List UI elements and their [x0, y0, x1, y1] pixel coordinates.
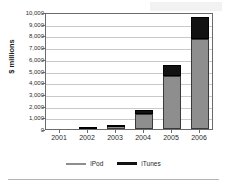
y-axis-tick-mark	[42, 95, 45, 96]
gridline	[46, 37, 212, 38]
gridline	[46, 96, 212, 97]
x-axis-tick-label: 2002	[73, 134, 101, 141]
x-axis-tick-label: 2003	[101, 134, 129, 141]
x-axis-tick-label: 2004	[129, 134, 157, 141]
y-axis-tick-mark	[42, 60, 45, 61]
legend-label: iPod	[90, 160, 103, 167]
y-axis-tick-label: 8,000	[10, 33, 44, 39]
legend-item-ipod: iPod	[66, 160, 103, 167]
y-axis-tick-mark	[42, 72, 45, 73]
gridline	[46, 73, 212, 74]
y-axis-tick-mark	[42, 36, 45, 37]
bar-segment-itunes	[191, 17, 209, 39]
x-axis-tick-mark	[171, 130, 172, 133]
y-axis-tick-label: 5,000	[10, 69, 44, 75]
x-axis-tick-mark	[143, 130, 144, 133]
scan-watermark-artifact	[150, 2, 222, 11]
x-axis-tick-label: 2001	[45, 134, 73, 141]
x-axis-tick-label: 2005	[157, 134, 185, 141]
bar-stack	[51, 12, 69, 129]
y-axis-tick-mark	[42, 107, 45, 108]
y-axis-tick-mark	[42, 130, 45, 131]
gridline	[46, 61, 212, 62]
legend-swatch-itunes	[117, 162, 137, 165]
y-axis-tick-label: 9,000	[10, 22, 44, 28]
bar-segment-itunes	[107, 125, 125, 127]
bar-segment-itunes	[135, 110, 153, 113]
x-axis-tick-label: 2006	[185, 134, 213, 141]
bar-stack	[163, 12, 181, 129]
y-axis-tick-label: 1,000	[10, 115, 44, 121]
bar-segment-ipod	[191, 39, 209, 129]
plot-inner	[46, 14, 212, 129]
gridline	[46, 119, 212, 120]
bar-stack	[191, 12, 209, 129]
y-axis-tick-label: 10,000	[10, 10, 44, 16]
bar-segment-itunes	[163, 65, 181, 76]
y-axis-tick-label: 4,000	[10, 80, 44, 86]
gridline	[46, 49, 212, 50]
bar-stack	[79, 12, 97, 129]
y-axis-tick-mark	[42, 48, 45, 49]
gridline	[46, 84, 212, 85]
y-axis-tick-label: 0	[10, 127, 44, 133]
gridline	[46, 108, 212, 109]
x-axis-tick-mark	[115, 130, 116, 133]
bar-segment-ipod	[163, 76, 181, 129]
y-axis-tick-label: 6,000	[10, 57, 44, 63]
chart-legend: iPodiTunes	[0, 160, 227, 167]
x-axis-tick-mark	[199, 130, 200, 133]
y-axis-tick-label: 3,000	[10, 92, 44, 98]
y-axis-tick-mark	[42, 25, 45, 26]
bar-stack	[107, 12, 125, 129]
bar-stack	[135, 12, 153, 129]
x-axis-tick-mark	[87, 130, 88, 133]
legend-swatch-ipod	[66, 163, 86, 165]
chart-figure: $ millions 01,0002,0003,0004,0005,0006,0…	[0, 0, 227, 183]
legend-item-itunes: iTunes	[117, 160, 160, 167]
plot-area	[45, 13, 213, 130]
y-axis-tick-mark	[42, 83, 45, 84]
y-axis-tick-label: 2,000	[10, 104, 44, 110]
x-axis-tick-mark	[59, 130, 60, 133]
bar-segment-itunes	[79, 127, 97, 129]
gridline	[46, 26, 212, 27]
bar-segment-ipod	[135, 114, 153, 129]
legend-label: iTunes	[141, 160, 160, 167]
bottom-divider	[8, 179, 219, 180]
y-axis-tick-label: 7,000	[10, 45, 44, 51]
y-axis-tick-mark	[42, 118, 45, 119]
y-axis-tick-mark	[42, 13, 45, 14]
